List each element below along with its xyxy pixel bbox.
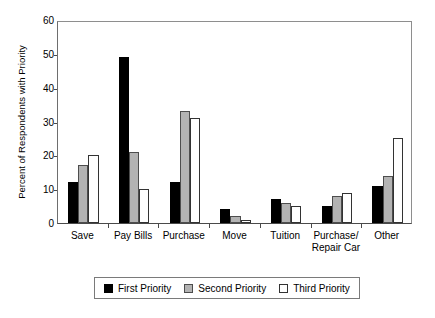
- bar[interactable]: [332, 196, 342, 223]
- bar[interactable]: [139, 189, 149, 223]
- y-tick-label: 40: [18, 84, 54, 94]
- bar[interactable]: [170, 182, 180, 223]
- chart-legend: First PrioritySecond PriorityThird Prior…: [94, 277, 360, 299]
- legend-item[interactable]: Third Priority: [279, 283, 350, 294]
- y-tick-label: 50: [18, 50, 54, 60]
- bar[interactable]: [342, 193, 352, 223]
- y-tick-label: 60: [18, 16, 54, 26]
- bar[interactable]: [230, 216, 240, 223]
- legend-swatch-icon: [104, 284, 113, 293]
- bar[interactable]: [180, 111, 190, 223]
- x-tick-mark: [311, 224, 312, 228]
- bar[interactable]: [291, 206, 301, 223]
- legend-label: Third Priority: [293, 283, 350, 294]
- plot-area: [58, 22, 411, 223]
- x-tick-label: Pay Bills: [108, 230, 159, 242]
- y-tick-label: 10: [18, 185, 54, 195]
- x-tick-label: Purchase: [158, 230, 209, 242]
- bar-group: [372, 22, 402, 223]
- bar[interactable]: [220, 209, 230, 223]
- legend-label: Second Priority: [198, 283, 266, 294]
- bar[interactable]: [190, 118, 200, 223]
- bar[interactable]: [68, 182, 78, 223]
- bar-group: [220, 22, 250, 223]
- bar[interactable]: [281, 203, 291, 223]
- bar[interactable]: [271, 199, 281, 223]
- x-tick-mark: [361, 224, 362, 228]
- bar-group: [271, 22, 301, 223]
- legend-swatch-icon: [279, 284, 288, 293]
- x-tick-label: Move: [209, 230, 260, 242]
- x-tick-mark: [108, 224, 109, 228]
- bar[interactable]: [383, 176, 393, 223]
- bar[interactable]: [119, 57, 129, 223]
- bar-chart: Percent of Respondents with Priority 010…: [0, 0, 435, 318]
- y-tick-label: 20: [18, 151, 54, 161]
- bar-group: [119, 22, 149, 223]
- bar-group: [322, 22, 352, 223]
- x-tick-label: Tuition: [260, 230, 311, 242]
- bar[interactable]: [372, 186, 382, 223]
- x-tick-mark: [209, 224, 210, 228]
- x-tick-mark: [260, 224, 261, 228]
- bar[interactable]: [241, 220, 251, 223]
- bar[interactable]: [393, 138, 403, 223]
- bar-group: [170, 22, 200, 223]
- legend-item[interactable]: Second Priority: [184, 283, 266, 294]
- y-tick-label: 30: [18, 118, 54, 128]
- bar-group: [68, 22, 98, 223]
- x-tick-mark: [158, 224, 159, 228]
- x-tick-label: Purchase/ Repair Car: [311, 230, 362, 254]
- legend-label: First Priority: [118, 283, 171, 294]
- legend-item[interactable]: First Priority: [104, 283, 171, 294]
- bar[interactable]: [129, 152, 139, 223]
- plot-frame: [57, 21, 412, 224]
- legend-swatch-icon: [184, 284, 193, 293]
- x-tick-label: Other: [361, 230, 412, 242]
- bar[interactable]: [78, 165, 88, 223]
- bar[interactable]: [88, 155, 98, 223]
- bar[interactable]: [322, 206, 332, 223]
- x-tick-label: Save: [57, 230, 108, 242]
- y-axis-ticks: 0102030405060: [16, 0, 54, 318]
- y-tick-label: 0: [18, 219, 54, 229]
